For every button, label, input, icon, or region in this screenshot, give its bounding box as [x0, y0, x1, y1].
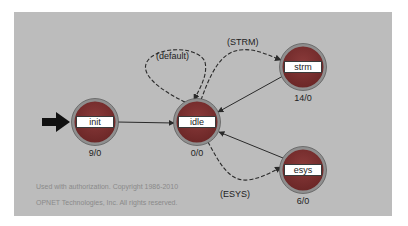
state-label-esys: esys — [284, 164, 322, 176]
initial-state-arrow-icon — [42, 112, 70, 132]
state-count-init: 9/0 — [80, 148, 110, 158]
copyright-line-2: OPNET Technologies, Inc. All rights rese… — [36, 199, 177, 206]
transition-label-strm: (STRM) — [227, 37, 259, 47]
transition-esys-idle[interactable] — [219, 132, 283, 158]
state-diagram-canvas — [0, 0, 408, 226]
state-label-strm: strm — [284, 61, 322, 73]
transition-init-idle[interactable] — [117, 122, 174, 123]
copyright-line-1: Used with authorization. Copyright 1986-… — [36, 183, 178, 190]
transition-label-default: (default) — [156, 51, 189, 61]
state-label-idle: idle — [178, 116, 216, 128]
state-count-strm: 14/0 — [288, 93, 318, 103]
transition-strm-idle[interactable] — [218, 76, 283, 112]
state-count-esys: 6/0 — [288, 196, 318, 206]
transition-label-esys: (ESYS) — [220, 189, 250, 199]
state-label-init: init — [76, 116, 114, 128]
state-count-idle: 0/0 — [182, 148, 212, 158]
transition-idle-strm[interactable] — [201, 50, 281, 100]
transition-idle-esys[interactable] — [208, 142, 281, 180]
